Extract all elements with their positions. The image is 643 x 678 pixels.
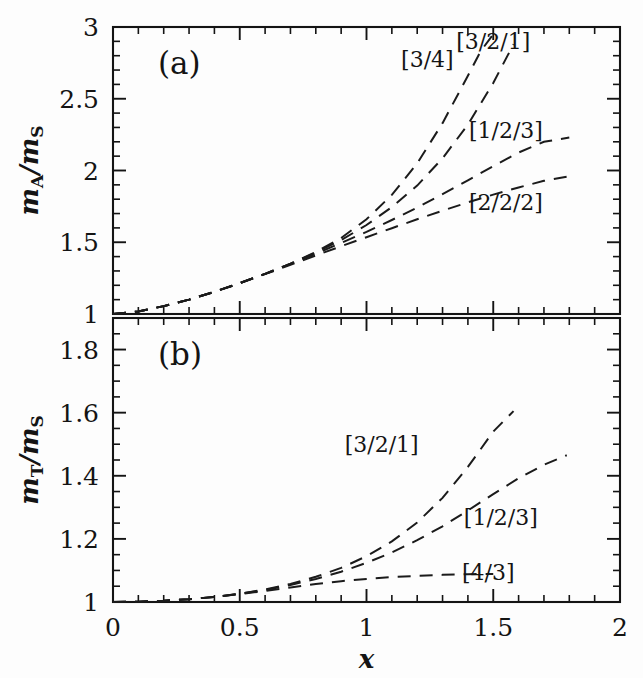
xtick-label-4: 2 [612, 613, 628, 642]
ytick-label-b-0: 1 [83, 588, 99, 617]
panel-b: 11.21.41.61.8[3/2/1][1/2/3][4/3](b)mT/mS [14, 318, 620, 617]
ytick-label-a-0: 1 [83, 300, 99, 329]
curve-label-b-0: [3/2/1] [345, 432, 419, 457]
curve-label-a-3: [2/2/2] [469, 190, 543, 215]
figure-annotations: 00.511.52x [105, 613, 628, 674]
curve-a-123 [113, 138, 569, 315]
panel-a: 11.522.53[3/4][3/2/1][1/2/3][2/2/2](a)mA… [14, 13, 620, 329]
ytick-label-a-2: 2 [83, 157, 99, 186]
xaxis-title: x [358, 644, 375, 674]
ytick-label-b-2: 1.4 [59, 462, 99, 491]
curve-label-a-1: [3/2/1] [456, 29, 530, 54]
xtick-label-0: 0 [105, 613, 121, 642]
yaxis-title-a: mA/mS [14, 125, 47, 215]
yaxis-title-text-a: mA/mS [14, 125, 47, 215]
curve-b-43 [113, 574, 493, 602]
figure-svg: 11.522.53[3/4][3/2/1][1/2/3][2/2/2](a)mA… [0, 0, 643, 678]
ytick-label-a-4: 3 [83, 13, 99, 42]
panel-letter-a: (a) [158, 45, 201, 81]
ytick-label-b-3: 1.6 [59, 399, 99, 428]
ytick-label-a-3: 2.5 [59, 85, 99, 114]
xtick-label-3: 1.5 [473, 613, 513, 642]
xtick-label-2: 1 [359, 613, 375, 642]
curve-label-b-2: [4/3] [462, 560, 515, 585]
curve-label-a-0: [3/4] [401, 47, 454, 72]
curve-label-a-2: [1/2/3] [469, 118, 543, 143]
yaxis-title-text-b: mT/mS [14, 415, 47, 504]
yaxis-title-b: mT/mS [14, 415, 47, 504]
panel-letter-b: (b) [158, 336, 202, 372]
ytick-label-a-1: 1.5 [59, 228, 99, 257]
curve-label-b-1: [1/2/3] [464, 505, 538, 530]
ytick-label-b-4: 1.8 [59, 336, 99, 365]
curve-b-321 [113, 411, 514, 602]
ytick-label-b-1: 1.2 [59, 525, 99, 554]
xtick-label-1: 0.5 [220, 613, 260, 642]
curve-a-321 [113, 44, 514, 314]
figure-container: 11.522.53[3/4][3/2/1][1/2/3][2/2/2](a)mA… [0, 0, 643, 678]
